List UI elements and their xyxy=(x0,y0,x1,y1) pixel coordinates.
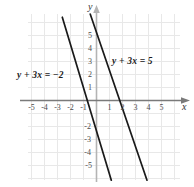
y-axis-label: y xyxy=(88,1,92,12)
coordinate-plane-svg xyxy=(0,0,194,187)
y-tick-label: 3 xyxy=(80,57,92,66)
x-tick-label: 5 xyxy=(155,103,169,112)
x-tick-label: -1 xyxy=(77,103,91,112)
y-tick-label: -2 xyxy=(79,122,91,131)
y-tick-label: 4 xyxy=(80,44,92,53)
x-tick-label: -4 xyxy=(38,103,52,112)
y-tick-label: 2 xyxy=(80,70,92,79)
line-y-plus-3x-equals-5 xyxy=(90,14,147,180)
equation-label-right: y + 3x = 5 xyxy=(112,56,153,66)
x-tick-label: 3 xyxy=(129,103,143,112)
x-tick-label: -5 xyxy=(25,103,39,112)
graph-figure: -5 -4 -3 -2 -1 1 2 3 4 5 5 4 3 2 1 -2 -3… xyxy=(0,0,194,187)
x-tick-label: -3 xyxy=(51,103,65,112)
x-tick-label: -2 xyxy=(64,103,78,112)
y-tick-label: -4 xyxy=(79,148,91,157)
x-axis-label: x xyxy=(182,101,186,112)
x-tick-label: 1 xyxy=(103,103,117,112)
x-tick-label: 2 xyxy=(116,103,130,112)
y-tick-label: 1 xyxy=(80,83,92,92)
y-tick-label: -5 xyxy=(80,161,92,170)
y-tick-label: -3 xyxy=(79,135,91,144)
equation-label-left: y + 3x = −2 xyxy=(17,70,64,80)
y-tick-label: 5 xyxy=(80,31,92,40)
x-tick-label: 4 xyxy=(142,103,156,112)
